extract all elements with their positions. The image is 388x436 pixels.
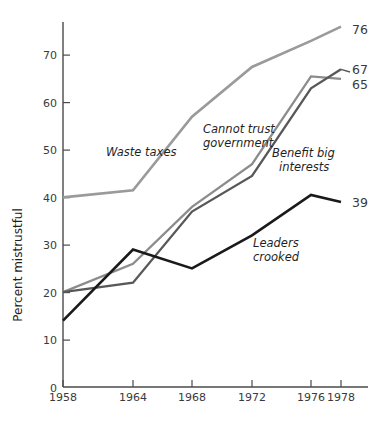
y-tick-label-60: 60 [43,97,57,110]
end-label-waste-taxes: 76 [352,22,368,37]
y-axis-title: Percent mistrustful [11,208,25,322]
end-label-benefit-big-interests: 67 [352,62,368,77]
chart-page: Percent mistrustful 70 60 50 40 30 20 10… [0,0,388,436]
y-tick-label-30: 30 [43,239,57,252]
x-tick-label-1976: 1976 [297,391,325,404]
line-chart: Percent mistrustful 70 60 50 40 30 20 10… [0,0,388,436]
series-line-leaders-crooked [63,195,341,321]
end-label-leaders-crooked: 39 [352,195,368,210]
x-tick-label-1978: 1978 [327,391,355,404]
y-tick-label-40: 40 [43,192,57,205]
annotation-cannot-trust-government-line1: Cannot trust [203,122,275,136]
series-line-benefit-big-interests [63,69,341,292]
annotation-leaders-crooked-line1: Leaders [253,236,299,250]
annotation-cannot-trust-government-line2: government [203,136,274,150]
annotation-leaders-crooked-line2: crooked [253,250,300,264]
x-tick-label-1958: 1958 [49,391,77,404]
y-tick-label-20: 20 [43,287,57,300]
y-tick-label-70: 70 [43,49,57,62]
y-tick-label-10: 10 [43,334,57,347]
x-tick-label-1968: 1968 [178,391,206,404]
leader-line-67 [341,69,350,72]
x-tick-label-1972: 1972 [238,391,266,404]
annotation-benefit-big-interests-line1: Benefit big [272,146,335,160]
end-label-cannot-trust-government: 65 [352,77,368,92]
annotation-benefit-big-interests-line2: interests [279,160,329,174]
y-tick-label-50: 50 [43,144,57,157]
annotation-waste-taxes: Waste taxes [106,145,176,159]
x-tick-label-1964: 1964 [119,391,147,404]
